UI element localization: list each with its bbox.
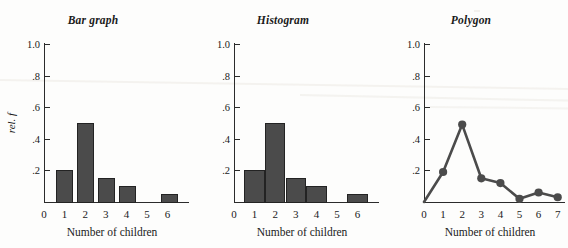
y-tick-label: .4 — [200, 133, 230, 144]
y-tick — [235, 139, 240, 140]
y-tick-label: .6 — [200, 102, 230, 113]
x-tick-label: 1 — [245, 208, 265, 220]
x-tick-label: 4 — [306, 208, 326, 220]
x-tick-label: 2 — [265, 208, 285, 220]
y-axis-title: rel. f — [5, 101, 17, 145]
x-tick-label: 5 — [510, 208, 530, 220]
y-tick — [45, 107, 50, 108]
figure-canvas: Bar graph 1.0 .8 .6 .4 .2 rel. f 0 1 2 3… — [0, 0, 568, 248]
bar-4 — [306, 186, 327, 202]
y-axis-line — [44, 43, 45, 203]
bar-6 — [347, 194, 368, 202]
x-tick-label: 2 — [452, 208, 472, 220]
y-tick — [45, 170, 50, 171]
polygon-point — [458, 120, 466, 128]
x-axis-title: Number of children — [445, 226, 536, 238]
polygon-point — [515, 195, 523, 203]
y-tick-label: 1.0 — [10, 39, 40, 50]
x-tick-label: 5 — [327, 208, 347, 220]
x-tick-label: 6 — [529, 208, 549, 220]
polygon-point — [477, 174, 485, 182]
x-tick-label: 3 — [286, 208, 306, 220]
y-tick-label: .2 — [200, 165, 230, 176]
bar-1 — [56, 170, 73, 202]
x-tick-label: 4 — [116, 208, 136, 220]
x-tick-label: 6 — [348, 208, 368, 220]
x-tick-label: 5 — [137, 208, 157, 220]
panel-histogram: Histogram 1.0 .8 .6 .4 .2 0 1 2 3 4 5 6 … — [190, 0, 380, 248]
x-tick-label: 1 — [55, 208, 75, 220]
bar-1 — [244, 170, 265, 202]
bar-3 — [286, 178, 307, 202]
polygon-point — [554, 193, 562, 201]
y-tick-label: 1.0 — [200, 39, 230, 50]
y-tick — [235, 76, 240, 77]
y-tick-label: .2 — [10, 165, 40, 176]
bar-6 — [161, 194, 178, 202]
bar-2 — [77, 123, 94, 203]
x-tick-label: 0 — [414, 208, 434, 220]
x-tick-label: 2 — [75, 208, 95, 220]
x-tick-label: 6 — [158, 208, 178, 220]
x-tick-label: 3 — [471, 208, 491, 220]
x-tick-label: 4 — [490, 208, 510, 220]
x-axis-title: Number of children — [257, 226, 348, 238]
y-tick — [235, 107, 240, 108]
x-tick-label: 0 — [34, 208, 54, 220]
chart-title-histogram: Histogram — [198, 14, 368, 26]
y-tick — [235, 44, 240, 45]
y-axis-line — [234, 43, 235, 203]
x-tick-label: 0 — [224, 208, 244, 220]
x-tick-label: 3 — [96, 208, 116, 220]
x-tick-label: 1 — [433, 208, 453, 220]
y-tick — [45, 139, 50, 140]
polygon-point — [496, 179, 504, 187]
polygon-point — [439, 168, 447, 176]
bar-4 — [119, 186, 136, 202]
x-axis-title: Number of children — [67, 226, 158, 238]
x-tick-label: 7 — [548, 208, 568, 220]
y-tick — [45, 76, 50, 77]
y-tick-label: .8 — [200, 70, 230, 81]
bar-3 — [98, 178, 115, 202]
polygon-point — [535, 188, 543, 196]
bar-2 — [265, 123, 286, 203]
y-tick-label: .8 — [10, 70, 40, 81]
y-tick — [45, 44, 50, 45]
chart-title-bar-graph: Bar graph — [8, 14, 178, 26]
y-tick — [235, 170, 240, 171]
panel-polygon: Polygon 1.0 .8 .6 .4 .2 0 1 2 3 4 5 6 — [380, 0, 568, 248]
panel-bar-graph: Bar graph 1.0 .8 .6 .4 .2 rel. f 0 1 2 3… — [0, 0, 190, 248]
